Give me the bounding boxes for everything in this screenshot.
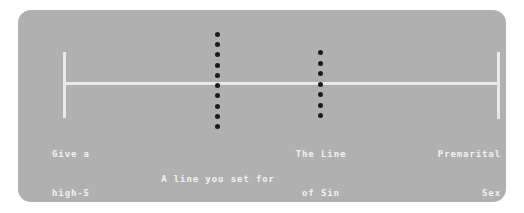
divider-dot: [215, 93, 220, 98]
label-line: Premarital: [411, 148, 501, 161]
divider-dot: [318, 50, 323, 55]
axis-endpoint-left-tick: [63, 52, 66, 118]
divider-dot: [215, 83, 220, 88]
divider-dot: [215, 114, 220, 119]
caption-line: yourself to keep: [136, 212, 300, 213]
label-line: Sex: [411, 187, 501, 200]
divider-dot: [215, 32, 220, 37]
divider-dot: [318, 92, 323, 97]
divider-dot: [318, 103, 323, 108]
divider-dot: [215, 104, 220, 109]
divider-dot: [318, 82, 323, 87]
spectrum-card: Give a high-5 The Line of Sin Premarital…: [18, 10, 506, 202]
label-line: Give a: [52, 148, 90, 161]
divider-dot: [215, 124, 220, 129]
dotted-divider-personal-line: [214, 32, 220, 129]
label-give-high-five: Give a high-5: [52, 122, 90, 213]
dotted-divider-line-of-sin: [317, 50, 323, 118]
divider-dot: [318, 113, 323, 118]
caption-line: A line you set for: [136, 173, 300, 186]
label-premarital-sex: Premarital Sex: [411, 122, 501, 213]
label-line: high-5: [52, 187, 90, 200]
axis-endpoint-right-tick: [497, 52, 500, 119]
divider-dot: [215, 42, 220, 47]
divider-dot: [318, 61, 323, 66]
diagram-canvas: Give a high-5 The Line of Sin Premarital…: [0, 0, 524, 213]
divider-dot: [215, 52, 220, 57]
divider-dot: [215, 73, 220, 78]
divider-dot: [215, 63, 220, 68]
caption-personal-line: A line you set for yourself to keep from…: [136, 147, 300, 213]
spectrum-axis-line: [63, 82, 500, 85]
divider-dot: [318, 71, 323, 76]
